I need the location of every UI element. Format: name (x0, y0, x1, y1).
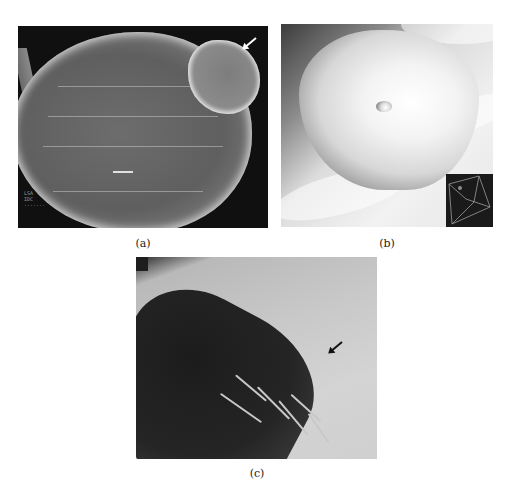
surface-ridge (48, 116, 218, 117)
caption-b: (b) (367, 237, 407, 250)
orifice (376, 101, 392, 112)
corner-marker (136, 257, 148, 271)
surface-ridge (43, 146, 223, 147)
surface-ridge (53, 191, 203, 192)
scanner-overlay-text: LSA IDC ······· (24, 190, 45, 208)
figure-panel-b (281, 24, 493, 227)
figure-panel-c (136, 257, 377, 459)
orientation-cube-icon (446, 174, 493, 227)
caption-a: (a) (123, 237, 163, 250)
surface-ridge (58, 86, 208, 87)
figure-panel-a: LSA IDC ······· (18, 26, 268, 228)
orientation-cube-inset (446, 174, 493, 227)
arrow-icon (329, 341, 343, 353)
contrast-filled-cavity (136, 267, 339, 459)
arrow-icon (243, 37, 257, 49)
surface-highlight (113, 171, 133, 173)
caption-c: (c) (237, 467, 277, 480)
